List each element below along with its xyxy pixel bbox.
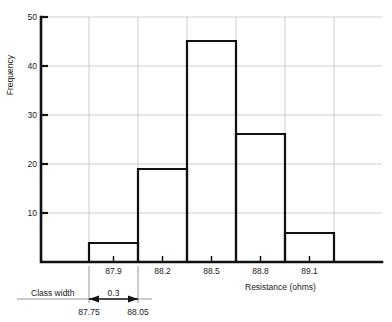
bar-88.2 (138, 169, 187, 262)
ytick-label-20: 20 (28, 159, 38, 169)
xtick-label-87.9: 87.9 (105, 266, 122, 276)
ytick-label-40: 40 (28, 61, 38, 71)
x-axis-title: Resistance (ohms) (245, 282, 316, 292)
class-width-value: 0.3 (108, 288, 120, 298)
axis-lines (41, 17, 382, 262)
vertical-gridlines (89, 17, 334, 262)
bar-88.8 (236, 134, 285, 262)
axis-frame (41, 17, 382, 262)
ytick-label-10: 10 (28, 208, 38, 218)
class-width-annotation: Class width 0.3 87.75 88.05 (17, 266, 152, 317)
ytick-label-50: 50 (28, 12, 38, 22)
y-axis-title: Frequency (5, 54, 15, 95)
horizontal-gridlines (41, 17, 382, 213)
upper-bound-label: 88.05 (127, 307, 149, 317)
ytick-label-30: 30 (28, 110, 38, 120)
class-width-label: Class width (31, 288, 75, 298)
histogram-bars (89, 41, 334, 262)
annotation-arrow-left-icon (89, 296, 99, 303)
x-axis-tick-labels: 87.9 88.2 88.5 88.8 89.1 (105, 266, 318, 276)
xtick-label-88.2: 88.2 (154, 266, 171, 276)
bar-88.5 (187, 41, 236, 262)
annotation-arrow-right-icon (128, 296, 138, 303)
xtick-label-89.1: 89.1 (301, 266, 318, 276)
xtick-label-88.8: 88.8 (252, 266, 269, 276)
histogram-chart: 50 40 30 20 10 Frequency (0, 0, 392, 322)
y-axis-tick-labels: 50 40 30 20 10 (28, 12, 38, 218)
xtick-label-88.5: 88.5 (203, 266, 220, 276)
lower-bound-label: 87.75 (78, 307, 100, 317)
